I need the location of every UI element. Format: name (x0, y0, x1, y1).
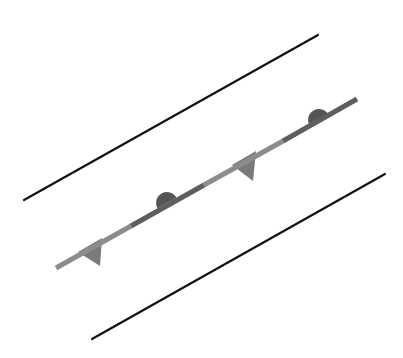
front-segment (131, 185, 204, 226)
stationary-front (56, 99, 357, 268)
front-diagram (0, 0, 403, 358)
front-segment (204, 141, 283, 185)
upper-boundary-line (24, 35, 318, 200)
lower-boundary-line (92, 174, 385, 339)
diagram-canvas (0, 0, 403, 358)
front-segment (283, 99, 357, 141)
